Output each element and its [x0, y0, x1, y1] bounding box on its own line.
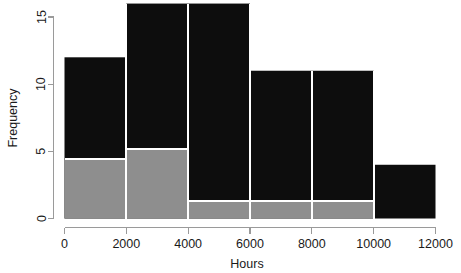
histogram-chart: 051015 020004000600080001000012000 Hours… [0, 0, 461, 273]
bar-subgroup-segment [312, 201, 374, 218]
bar-subgroup-segment [188, 201, 250, 218]
y-tick-label: 5 [35, 148, 49, 155]
x-tick-label: 12000 [418, 237, 453, 251]
x-tick-label: 4000 [174, 237, 202, 251]
chart-canvas: 051015 020004000600080001000012000 Hours… [0, 0, 461, 273]
bar-subgroup-segment [126, 149, 188, 219]
bars-layer [65, 4, 436, 219]
y-axis: 051015 [35, 10, 54, 222]
x-tick-group: 020004000600080001000012000 [61, 228, 453, 251]
bar-group [65, 57, 127, 218]
bar-group [312, 71, 374, 219]
y-tick-group: 051015 [35, 10, 54, 222]
bar-group [126, 4, 188, 219]
bar-total-segment [188, 4, 250, 219]
bar-subgroup-segment [250, 201, 312, 218]
x-axis-title: Hours [230, 257, 263, 271]
y-axis-title: Frequency [6, 88, 20, 148]
x-axis: 020004000600080001000012000 [61, 228, 453, 251]
bar-total-segment [250, 71, 312, 219]
bar-subgroup-segment [65, 159, 127, 218]
y-tick-label: 15 [35, 10, 49, 24]
x-tick-label: 10000 [356, 237, 391, 251]
bar-group [250, 71, 312, 219]
x-tick-label: 2000 [112, 237, 140, 251]
y-tick-label: 0 [35, 215, 49, 222]
x-tick-label: 6000 [236, 237, 264, 251]
bar-group [374, 165, 436, 219]
y-tick-label: 10 [35, 77, 49, 91]
x-tick-label: 0 [61, 237, 68, 251]
bar-group [188, 4, 250, 219]
bar-total-segment [312, 71, 374, 219]
bar-total-segment [374, 165, 436, 219]
x-tick-label: 8000 [298, 237, 326, 251]
